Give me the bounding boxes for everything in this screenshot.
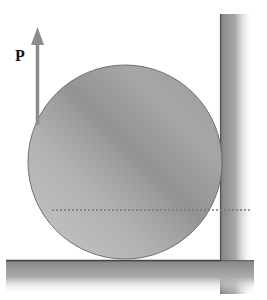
force-arrow-p	[31, 27, 44, 125]
wall	[220, 14, 254, 294]
sphere	[28, 65, 250, 259]
force-label-p: P	[15, 47, 25, 65]
diagram-canvas	[0, 0, 267, 300]
floor	[6, 260, 254, 294]
